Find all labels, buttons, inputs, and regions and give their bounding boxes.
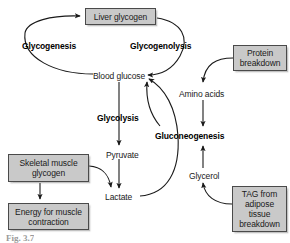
box-tag-adipose-breakdown[interactable]: TAG from adipose tissue breakdown bbox=[232, 186, 287, 232]
label-gluconeogenesis: Gluconeogenesis bbox=[155, 131, 224, 141]
box-skeletal-muscle-glycogen[interactable]: Skeletal muscle glycogen bbox=[8, 154, 89, 182]
label-glycogenolysis: Glycogenolysis bbox=[130, 41, 191, 51]
label-glycogenesis: Glycogenesis bbox=[22, 41, 76, 51]
node-glycerol: Glycerol bbox=[189, 171, 219, 181]
figure-container: Liver glycogen Protein breakdown Skeleta… bbox=[0, 0, 290, 243]
node-amino-acids: Amino acids bbox=[179, 89, 224, 99]
box-protein-breakdown[interactable]: Protein breakdown bbox=[233, 45, 287, 71]
label-glycolysis: Glycolysis bbox=[97, 113, 139, 123]
box-liver-glycogen[interactable]: Liver glycogen bbox=[85, 8, 156, 25]
arrow-protein-to-amino-acids bbox=[203, 58, 233, 82]
node-lactate: Lactate bbox=[105, 192, 132, 202]
figure-caption: Fig. 3.7 bbox=[6, 233, 34, 243]
node-blood-glucose: Blood glucose bbox=[93, 71, 145, 81]
box-energy-for-muscle-contraction[interactable]: Energy for muscle contraction bbox=[8, 203, 89, 230]
node-pyruvate: Pyruvate bbox=[106, 150, 139, 160]
arrow-tag-to-glycerol bbox=[203, 183, 232, 204]
arrow-gluconeogenesis-to-blood-glucose bbox=[147, 82, 160, 126]
arrow-muscle-glycogen-to-lactate bbox=[89, 166, 111, 187]
